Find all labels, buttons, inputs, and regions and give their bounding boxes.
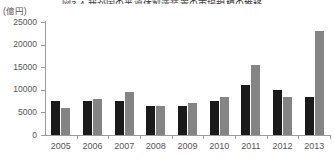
y-tick-label: 15000 [1,63,37,72]
y-tick-label: 0 [1,131,37,140]
x-tick-mark [77,135,78,139]
bar-series-black-2008 [146,106,155,135]
x-tick-mark [267,135,268,139]
x-tick-label: 2012 [267,141,299,151]
x-tick-label: 2011 [235,141,267,151]
x-tick-mark [203,135,204,139]
x-tick-label: 2009 [172,141,204,151]
bar-series-gray-2008 [156,106,165,135]
x-tick-label: 2013 [298,141,330,151]
bar-series-gray-2011 [251,65,260,135]
x-tick-label: 2008 [140,141,172,151]
x-tick-mark [235,135,236,139]
y-tick-label: 5000 [1,108,37,117]
chart-figure: 図3-4 我が国の半導体製造装置の市場規模の推移 (億円) 0500010000… [0,0,334,160]
bar-series-black-2007 [115,101,124,135]
bar-series-black-2009 [178,106,187,135]
y-tick-label: 10000 [1,85,37,94]
x-tick-mark [330,135,331,139]
x-tick-label: 2010 [203,141,235,151]
plot-area [45,22,330,135]
x-tick-mark [298,135,299,139]
x-axis-line [45,135,330,136]
y-tick-label: 20000 [1,40,37,49]
bar-series-gray-2006 [93,99,102,135]
bar-series-black-2005 [51,101,60,135]
x-tick-label: 2005 [45,141,77,151]
bar-series-gray-2009 [188,103,197,135]
bar-series-black-2013 [305,97,314,135]
bar-series-black-2011 [241,85,250,135]
chart-title-clipped: 図3-4 我が国の半導体製造装置の市場規模の推移 [62,0,276,4]
bar-series-gray-2010 [220,97,229,135]
y-tick-label: 25000 [1,18,37,27]
x-tick-label: 2007 [108,141,140,151]
y-tick-mark [41,135,45,136]
x-tick-mark [172,135,173,139]
x-tick-mark [108,135,109,139]
bar-series-gray-2005 [61,108,70,135]
y-axis-unit-label: (億円) [3,6,27,16]
bar-series-black-2012 [273,90,282,135]
x-tick-mark [140,135,141,139]
bar-series-gray-2007 [125,92,134,135]
bar-series-gray-2013 [315,31,324,135]
bar-series-gray-2012 [283,97,292,135]
bar-series-black-2010 [210,101,219,135]
x-tick-label: 2006 [77,141,109,151]
bar-series-black-2006 [83,101,92,135]
